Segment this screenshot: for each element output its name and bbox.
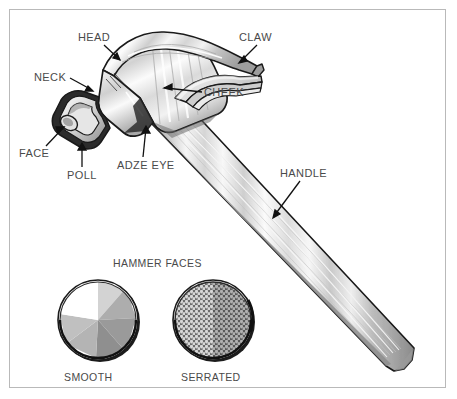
face-swatch-serrated xyxy=(173,280,255,362)
callout-label-adze-eye: ADZE EYE xyxy=(117,160,175,171)
callout-label-claw: CLAW xyxy=(239,32,272,43)
callout-label-cheek: CHEEK xyxy=(204,87,244,98)
diagram-canvas: HEAD CLAW NECK CHEEK FACE ADZE EYE POLL … xyxy=(0,0,457,399)
face-label-serrated: SERRATED xyxy=(181,372,241,383)
hammer-faces-title: HAMMER FACES xyxy=(113,258,202,269)
callout-label-neck: NECK xyxy=(34,72,66,83)
callout-label-head: HEAD xyxy=(78,32,110,43)
callout-label-poll: POLL xyxy=(67,170,97,181)
callout-label-handle: HANDLE xyxy=(280,168,327,179)
face-swatch-smooth xyxy=(58,280,140,362)
callout-label-face: FACE xyxy=(19,148,49,159)
hammer-illustration xyxy=(0,0,457,399)
face-label-smooth: SMOOTH xyxy=(64,372,112,383)
